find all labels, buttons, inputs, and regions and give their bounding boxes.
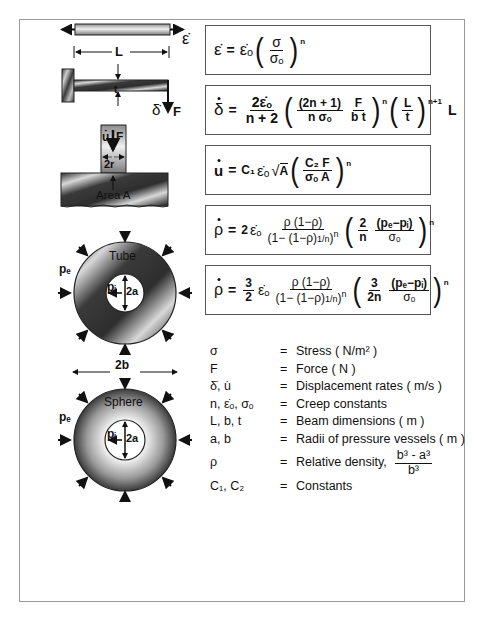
eq5-edot-o: ε̇ₒ (258, 282, 270, 298)
eq5-equals: = (228, 282, 236, 298)
eq2-num-4: L (402, 97, 413, 111)
symbol-legend: σ = Stress ( N/m² ) F = Force ( N ) δ̇, … (210, 343, 465, 496)
eq2-frac-2: (2n + 1) n σₒ (297, 97, 343, 123)
legend-row: a, b = Radii of pressure vessels ( m ) (210, 431, 465, 449)
legend-symbol: L, b, t (210, 413, 280, 431)
legend-symbol: a, b (210, 431, 280, 449)
eq2-num-2: (2n + 1) (297, 97, 343, 111)
eq4-frac-rho: ρ (1−ρ) (1− (1−ρ)1/n)n (266, 216, 341, 244)
eq1-lhs: ε̇ (214, 40, 222, 60)
eq3-equals: = (228, 162, 236, 178)
eq4-equals: = (228, 222, 236, 238)
label-radius: 2r (104, 158, 114, 170)
legend-symbol: ρ (210, 454, 280, 472)
relative-density-fraction: b³ - a³ b³ (395, 449, 432, 476)
eq2-den-1: n + 2 (244, 111, 280, 126)
eq5-coef-num: 3 (243, 277, 254, 291)
legend-description: Constants (296, 478, 352, 496)
eq2-paren2-close: ) (417, 94, 426, 127)
eq5-rho: ρ (214, 281, 223, 299)
label-indent-force: F (116, 130, 123, 144)
eq5-den-n: n (342, 289, 347, 299)
eq4-rho: ρ (214, 221, 223, 239)
legend-row: F = Force ( N ) (210, 361, 465, 379)
eq5-num-p: (pₑ−pᵢ) (389, 277, 429, 291)
legend-row: C₁, C₂ = Constants (210, 478, 465, 496)
eq1-paren-open: ( (255, 34, 264, 67)
label-strain-rate: ε̇ (182, 30, 189, 48)
label-force: F (173, 104, 181, 119)
eq4-exp-n: n (429, 218, 434, 227)
legend-description: Radii of pressure vessels ( m ) (296, 431, 465, 449)
legend-description-group: Relative density, b³ - a³ b³ (296, 449, 434, 476)
legend-symbol: F (210, 361, 280, 379)
label-inner-pressure-sphere: pᵢ (107, 427, 116, 441)
eq3-sqrt-A: A (280, 163, 289, 178)
eq1-paren-close: ) (290, 34, 299, 67)
eq5-frac-p: (pₑ−pᵢ) σₒ (389, 277, 429, 303)
legend-description: Stress ( N/m² ) (296, 343, 377, 361)
legend-description: Beam dimensions ( m ) (296, 413, 425, 431)
legend-equals: = (280, 361, 296, 379)
eq5-frac-coef: 3 2 (243, 277, 254, 303)
eq3-frac: C₂ F σₒ A (303, 157, 332, 183)
label-outer-pressure-tube: pₑ (59, 262, 71, 276)
eq3-num: C₂ F (303, 157, 332, 171)
equation-indentation: u = C₁ ε̇ₒ √ A ( C₂ F σₒ A ) n (205, 145, 431, 195)
eq2-equals: = (228, 102, 236, 118)
eq5-den-2n: 2n (365, 291, 383, 304)
eq2-exp-n: n (382, 97, 387, 106)
label-inner-diameter-tube: 2a (126, 285, 138, 297)
eq5-frac-2n: 3 2n (365, 277, 383, 303)
eq2-lhs: δ (214, 100, 223, 120)
eq4-num-p: (pₑ−pᵢ) (375, 217, 415, 231)
eq4-lhs: ρ (214, 221, 223, 239)
eq2-trailing-L: L (448, 102, 457, 118)
relative-density-den: b³ (406, 464, 421, 477)
eq4-paren-close: ) (418, 214, 427, 247)
legend-equals: = (280, 378, 296, 396)
equation-sphere: ρ = 3 2 ε̇ₒ ρ (1−ρ) (1− (1−ρ)1/n)n ( 3 2… (205, 265, 431, 315)
legend-symbol: C₁, C₂ (210, 478, 280, 496)
eq5-den-text: (1− (1−ρ) (276, 291, 326, 305)
label-indent-rate: u̇ (102, 130, 109, 144)
label-inner-pressure-tube: pᵢ (107, 280, 116, 294)
label-inner-diameter-sphere: 2a (126, 432, 138, 444)
eq5-exp-n: n (444, 278, 449, 287)
eq5-den: (1− (1−ρ)1/n)n (274, 290, 349, 305)
legend-symbol: n, ε̇ₒ, σₒ (210, 396, 280, 414)
eq3-paren-close: ) (336, 154, 345, 187)
eq3-den: σₒ A (303, 171, 332, 184)
eq1-num: σ (270, 35, 283, 51)
legend-equals: = (280, 413, 296, 431)
eq2-frac-1: 2ε̇ₒ n + 2 (244, 95, 280, 125)
eq5-frac-rho: ρ (1−ρ) (1− (1−ρ)1/n)n (274, 276, 349, 304)
eq5-num-3: 3 (369, 277, 380, 291)
eq4-coef: 2 (241, 223, 248, 237)
eq4-num: ρ (1−ρ) (282, 216, 325, 230)
eq2-paren-open: ( (284, 94, 293, 127)
eq1-edot-o: ε̇ₒ (240, 41, 253, 59)
eq4-paren-open: ( (345, 214, 354, 247)
eq4-frac-2n: 2 n (357, 217, 368, 243)
legend-description: Displacement rates ( m/s ) (296, 378, 442, 396)
eq2-delta: δ (214, 100, 223, 120)
legend-equals: = (280, 478, 296, 496)
legend-row: ρ = Relative density, b³ - a³ b³ (210, 448, 465, 478)
label-outer-pressure-sphere: pₑ (59, 410, 71, 424)
label-area: Area A (96, 189, 131, 201)
eq2-frac-3: F b t (349, 97, 368, 123)
eq4-den-n: n (334, 229, 339, 239)
legend-row: L, b, t = Beam dimensions ( m ) (210, 413, 465, 431)
eq4-num-2: 2 (358, 217, 369, 231)
eq2-num-1: 2ε̇ₒ (250, 95, 274, 111)
eq1-den: σₒ (268, 51, 286, 66)
legend-row: n, ε̇ₒ, σₒ = Creep constants (210, 396, 465, 414)
eq5-paren-open: ( (353, 274, 362, 307)
eq3-c1: C₁ (241, 163, 255, 177)
label-sphere: Sphere (104, 395, 143, 409)
label-tube: Tube (109, 249, 136, 263)
eq5-num: ρ (1−ρ) (290, 276, 333, 290)
eq4-edot-o: ε̇ₒ (250, 222, 262, 238)
eq1-equals: = (227, 42, 235, 58)
